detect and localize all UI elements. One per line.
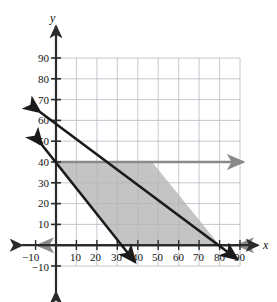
x-tick-label-90: 90 [234, 252, 245, 263]
y-tick-label-70: 70 [27, 95, 49, 106]
y-tick-label-50: 50 [27, 136, 49, 147]
y-tick-label-40: 40 [27, 157, 49, 168]
y-tick-label-20: 20 [27, 198, 49, 209]
y-tick-label-80: 80 [27, 74, 49, 85]
x-axis-label: x [263, 239, 268, 251]
y-tick-label-30: 30 [27, 178, 49, 189]
x-tick-label-minus10: −10 [22, 252, 39, 263]
y-tick-label-10: 10 [27, 219, 49, 230]
x-tick-label-40: 40 [132, 252, 143, 263]
y-tick-label-60: 60 [27, 115, 49, 126]
y-tick-label-90: 90 [27, 53, 49, 64]
y-axis-label: y [50, 12, 55, 24]
graph-figure: 90 80 70 60 50 40 30 20 10 −10 −10 10 20… [0, 0, 277, 302]
x-tick-label-30: 30 [111, 252, 122, 263]
x-tick-label-50: 50 [152, 252, 163, 263]
y-tick-label-minus10: −10 [21, 262, 49, 273]
x-tick-label-70: 70 [193, 252, 204, 263]
x-tick-label-80: 80 [214, 252, 225, 263]
x-tick-label-10: 10 [70, 252, 81, 263]
x-tick-label-20: 20 [90, 252, 101, 263]
x-tick-label-60: 60 [173, 252, 184, 263]
